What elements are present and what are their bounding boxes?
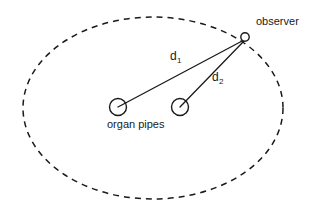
distance-d2-subscript: 2 <box>219 77 224 86</box>
boundary-ellipse-dashed <box>23 17 283 199</box>
observer-point-circle <box>241 33 249 41</box>
distance-d1-label: d1 <box>170 50 182 65</box>
distance-d1-symbol: d <box>170 49 177 63</box>
organ-pipes-interference-diagram: observer organ pipes d1 d2 <box>0 0 324 216</box>
distance-d2-label: d2 <box>212 71 224 86</box>
organ-pipe-left-circle <box>110 99 127 116</box>
organ-pipe-right-circle <box>172 99 189 116</box>
observer-label: observer <box>256 16 299 27</box>
distance-d2-symbol: d <box>212 70 219 84</box>
organ-pipes-label: organ pipes <box>107 119 165 130</box>
distance-d1-subscript: 1 <box>177 56 182 65</box>
diagram-canvas <box>0 0 324 216</box>
